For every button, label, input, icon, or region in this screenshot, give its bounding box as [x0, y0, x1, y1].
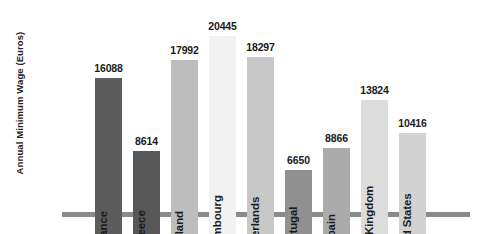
bar-value-label: 8866 — [325, 132, 348, 144]
bar[interactable]: United States — [399, 133, 426, 234]
bar[interactable]: Spain — [323, 148, 350, 234]
bar[interactable]: Luxembourg — [209, 36, 236, 234]
bar[interactable]: Portugal — [285, 170, 312, 234]
bar-slot: 17992Ireland — [171, 22, 198, 234]
bar-category-label: Portugal — [287, 206, 299, 234]
bar-slot: 20445Luxembourg — [209, 22, 236, 234]
bar-value-label: 18297 — [246, 41, 275, 53]
bar-slot: 8866Spain — [323, 22, 350, 234]
bar-slot: 13824United Kingdom — [361, 22, 388, 234]
bar[interactable]: France — [95, 78, 122, 234]
bar-value-label: 16088 — [94, 62, 123, 74]
bar-value-label: 8614 — [135, 135, 158, 147]
y-axis-title: Annual Minimum Wage (Euros) — [10, 0, 28, 220]
bar-category-label: Greece — [135, 210, 147, 234]
bar-slot: 8614Greece — [133, 22, 160, 234]
bar-slot: 18297Netherlands — [247, 22, 274, 234]
bar-slot: 10416United States — [399, 22, 426, 234]
bar-category-label: United Kingdom — [363, 185, 375, 234]
bar-category-label: United States — [401, 193, 413, 234]
bar-value-label: 13824 — [360, 84, 389, 96]
bar-category-label: Luxembourg — [211, 195, 223, 234]
bar[interactable]: Ireland — [171, 60, 198, 234]
bar-value-label: 10416 — [398, 117, 427, 129]
bar-value-label: 6650 — [287, 154, 310, 166]
bar-category-label: Netherlands — [249, 196, 261, 234]
plot-area: 16088France8614Greece17992Ireland20445Lu… — [62, 0, 470, 234]
bar-category-label: Ireland — [173, 210, 185, 234]
bar-slot: 16088France — [95, 22, 122, 234]
bar-slot: 6650Portugal — [285, 22, 312, 234]
bar[interactable]: Netherlands — [247, 57, 274, 234]
bar-chart: Annual Minimum Wage (Euros) 16088France8… — [0, 0, 477, 234]
bar-category-label: Spain — [325, 214, 337, 234]
bar[interactable]: Greece — [133, 151, 160, 234]
bar-value-label: 17992 — [170, 44, 199, 56]
bar-category-label: France — [97, 210, 109, 234]
bar-value-label: 20445 — [208, 20, 237, 32]
bar[interactable]: United Kingdom — [361, 100, 388, 234]
bar-series: 16088France8614Greece17992Ireland20445Lu… — [95, 0, 470, 234]
